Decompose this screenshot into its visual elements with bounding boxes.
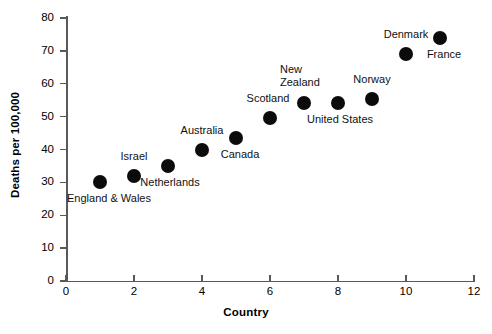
data-point-label: England & Wales (67, 192, 207, 205)
x-tick-label: 10 (386, 285, 426, 297)
y-tick-label: 70 (10, 45, 54, 57)
x-tick-label: 6 (250, 285, 290, 297)
data-point-label: Australia (132, 124, 272, 137)
y-tick-label: 50 (10, 111, 54, 123)
data-point-label: Norway (302, 73, 442, 86)
data-point (161, 159, 175, 173)
x-axis-title: Country (0, 306, 492, 318)
y-tick-label: 40 (10, 144, 54, 156)
y-tick-label: 20 (10, 209, 54, 221)
y-tick-label: 80 (10, 12, 54, 24)
x-tick-label: 12 (454, 285, 492, 297)
y-tick-label: 10 (10, 242, 54, 254)
data-point (229, 131, 243, 145)
data-point-label: Denmark (336, 28, 476, 41)
y-tick-label: 30 (10, 176, 54, 188)
x-tick-label: 8 (318, 285, 358, 297)
scatter-chart: Deaths per 100,000 01020304050607080 024… (0, 0, 492, 334)
x-tick-label: 0 (46, 285, 86, 297)
data-point-label: Netherlands (100, 176, 240, 189)
x-tick-label: 4 (182, 285, 222, 297)
data-point-label: Canada (170, 148, 310, 161)
data-point-label: France (374, 48, 492, 61)
data-point-label: United States (270, 113, 410, 126)
x-tick-label: 2 (114, 285, 154, 297)
data-point (433, 31, 447, 45)
data-point (365, 92, 379, 106)
data-point-label: Scotland (198, 92, 338, 105)
y-tick-label: 60 (10, 78, 54, 90)
